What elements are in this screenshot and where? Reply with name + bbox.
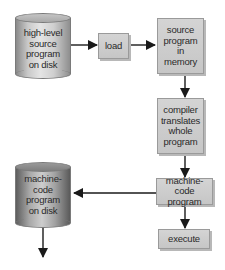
label-line: compiler <box>161 105 200 116</box>
load-box: load <box>98 33 129 59</box>
label-line: program <box>157 197 212 208</box>
label-line: high-level <box>15 28 71 39</box>
execute-label: execute <box>168 234 200 245</box>
compiler-box: compiler translates whole program <box>157 98 204 154</box>
source-memory-box: source program in memory <box>157 18 204 74</box>
label-line: on disk <box>15 206 71 217</box>
label-line: memory <box>164 57 198 68</box>
label-line: in <box>164 46 198 57</box>
label-line: source <box>164 25 198 36</box>
load-label: load <box>105 41 122 52</box>
label-line: on disk <box>15 60 71 71</box>
machine-code-box: machine-code program <box>156 178 213 205</box>
execute-box: execute <box>158 229 210 249</box>
label-line: machine- <box>15 174 71 185</box>
source-disk-label: high-level source program on disk <box>15 28 71 70</box>
source-disk-cylinder: high-level source program on disk <box>15 13 71 79</box>
label-line: program <box>15 49 71 60</box>
label-line: whole <box>161 126 200 137</box>
machine-disk-cylinder: machine- code program on disk <box>15 162 71 228</box>
machine-disk-label: machine- code program on disk <box>15 174 71 216</box>
label-line: machine-code <box>157 176 212 197</box>
label-line: program <box>161 137 200 148</box>
label-line: program <box>15 195 71 206</box>
